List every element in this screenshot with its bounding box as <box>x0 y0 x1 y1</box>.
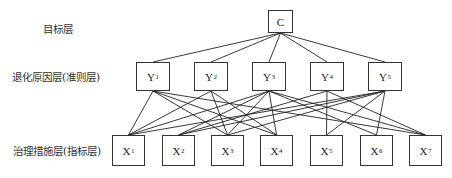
node-subscript: 5 <box>329 147 333 155</box>
node-subscript: 2 <box>181 147 185 155</box>
node-subscript: 1 <box>131 147 135 155</box>
node-subscript: 5 <box>387 73 391 81</box>
node-y2: Y2 <box>194 62 228 91</box>
node-label: Y <box>147 71 155 83</box>
edge-c-y4 <box>281 33 328 62</box>
node-label: Y <box>321 71 329 83</box>
node-y5: Y5 <box>368 62 402 91</box>
node-y4: Y4 <box>310 62 344 91</box>
node-subscript: 1 <box>155 73 159 81</box>
node-x3: X3 <box>211 135 244 166</box>
edge-y4-x5 <box>327 91 328 135</box>
node-subscript: 3 <box>230 147 234 155</box>
edge-y1-x7 <box>153 91 426 135</box>
node-x5: X5 <box>310 135 343 166</box>
node-label: Y <box>263 71 271 83</box>
node-subscript: 6 <box>379 147 383 155</box>
edge-y2-x4 <box>211 91 277 135</box>
node-c: C <box>268 10 293 33</box>
node-subscript: 4 <box>329 73 333 81</box>
node-y3: Y3 <box>252 62 286 91</box>
node-label: X <box>420 145 428 157</box>
indicator-layer-label: 治理措施层(指标层) <box>13 143 101 158</box>
node-x2: X2 <box>162 135 195 166</box>
node-label: Y <box>379 71 387 83</box>
node-label: X <box>321 145 329 157</box>
edge-y3-x4 <box>269 91 277 135</box>
edge-c-y1 <box>153 33 281 62</box>
edge-c-y2 <box>211 33 281 62</box>
node-label: X <box>173 145 181 157</box>
edge-y5-x2 <box>179 91 386 135</box>
edge-y1-x3 <box>153 91 228 135</box>
node-label: X <box>222 145 230 157</box>
node-subscript: 4 <box>279 147 283 155</box>
node-x7: X7 <box>409 135 442 166</box>
goal-layer-label: 目标层 <box>43 21 73 36</box>
node-label: X <box>123 145 131 157</box>
node-subscript: 2 <box>213 73 217 81</box>
node-label: X <box>271 145 279 157</box>
node-label: Y <box>205 71 213 83</box>
node-x6: X6 <box>360 135 393 166</box>
node-subscript: 3 <box>271 73 275 81</box>
edge-c-y5 <box>281 33 386 62</box>
hierarchy-diagram: 目标层 退化原因层(准则层) 治理措施层(指标层) CY1Y2Y3Y4Y5X1X… <box>0 0 452 178</box>
node-y1: Y1 <box>136 62 170 91</box>
node-subscript: 7 <box>428 147 432 155</box>
criteria-layer-label: 退化原因层(准则层) <box>12 69 100 84</box>
node-x4: X4 <box>260 135 293 166</box>
node-label: X <box>371 145 379 157</box>
node-x1: X1 <box>112 135 145 166</box>
node-label: C <box>277 16 284 28</box>
